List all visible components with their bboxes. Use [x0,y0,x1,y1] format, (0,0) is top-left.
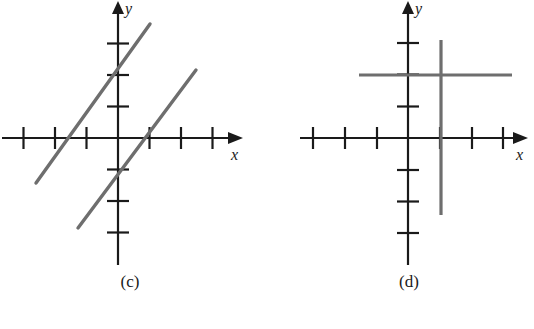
y-axis-arrowhead [402,1,414,14]
panel-d-y-axis-label: y [413,0,423,18]
panel-d-graph: x y [267,0,534,270]
panel-c-axes [2,1,243,265]
x-axis-arrowhead [228,132,243,144]
panel-c-x-axis-label: x [230,146,238,163]
panel-c-caption: (c) [100,272,160,292]
x-axis-arrowhead [513,132,528,144]
panel-c-y-axis-label: y [123,0,133,18]
figure-root: x y x y ( [0,0,534,329]
panel-d-axes [300,1,528,265]
line-steep-right [78,70,196,228]
line-steep-left [36,24,150,183]
y-axis-arrowhead [112,1,124,14]
panel-c-plotted-lines [36,24,196,228]
panel-d-caption: (d) [379,272,439,292]
panel-d-x-axis-label: x [515,146,523,163]
panel-c-graph: x y [0,0,267,270]
panel-d-plotted-lines [359,40,512,215]
